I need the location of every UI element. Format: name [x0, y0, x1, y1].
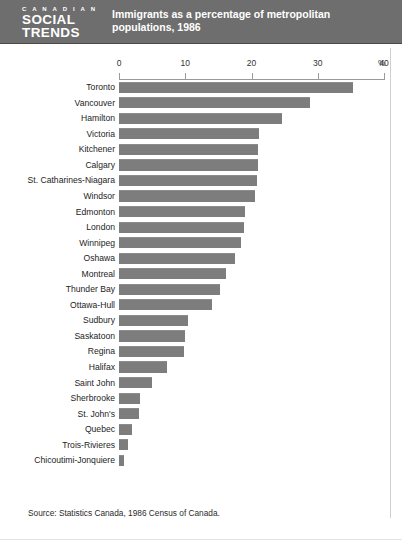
bar-wrapper	[119, 408, 139, 419]
bar	[119, 346, 184, 357]
bar-row: Thunder Bay	[0, 282, 402, 298]
bar-row: Edmonton	[0, 204, 402, 220]
bar	[119, 284, 220, 295]
bar-category-label: Montreal	[82, 269, 115, 279]
bar-wrapper	[119, 113, 282, 124]
bar-category-label: Chicoutimi-Jonquiere	[34, 455, 115, 465]
bar-wrapper	[119, 315, 188, 326]
bar	[119, 377, 152, 388]
bar-row: Windsor	[0, 189, 402, 205]
bar-wrapper	[119, 439, 128, 450]
bar	[119, 206, 245, 217]
bar-wrapper	[119, 424, 132, 435]
bar-wrapper	[119, 222, 244, 233]
bar-wrapper	[119, 361, 167, 372]
bar	[119, 330, 185, 341]
bar	[119, 455, 124, 466]
bar-wrapper	[119, 97, 310, 108]
bar-category-label: Saint John	[74, 378, 115, 388]
bar	[119, 175, 257, 186]
bar	[119, 268, 226, 279]
bar-row: Vancouver	[0, 96, 402, 112]
bar-wrapper	[119, 393, 140, 404]
x-axis-tick-label: 20	[232, 58, 272, 68]
bar-category-label: Trois-Rivieres	[62, 440, 115, 450]
bar-category-label: Oshawa	[83, 253, 115, 263]
bar-category-label: Kitchener	[79, 144, 115, 154]
bar-category-label: Winnipeg	[79, 238, 115, 248]
bar	[119, 439, 128, 450]
bar	[119, 159, 258, 170]
bar-row: Ottawa-Hull	[0, 298, 402, 314]
bar-row: Chicoutimi-Jonquiere	[0, 453, 402, 469]
bar-category-label: Victoria	[86, 129, 115, 139]
bar-category-label: Sherbrooke	[71, 393, 115, 403]
chart-title: Immigrants as a percentage of metropolit…	[112, 8, 387, 34]
bar	[119, 128, 259, 139]
bar-row: Toronto	[0, 80, 402, 96]
masthead-trends: TRENDS	[22, 26, 106, 40]
bar-wrapper	[119, 144, 258, 155]
bar-category-label: Ottawa-Hull	[70, 300, 115, 310]
bar-row: London	[0, 220, 402, 236]
bar-wrapper	[119, 175, 257, 186]
chart-page: C A N A D I A N SOCIAL TRENDS Immigrants…	[0, 0, 402, 540]
bar	[119, 97, 310, 108]
bar-row: Kitchener	[0, 142, 402, 158]
x-axis-tick-mark	[252, 73, 253, 80]
masthead-logo: C A N A D I A N SOCIAL TRENDS	[22, 5, 106, 40]
bar-category-label: Calgary	[85, 160, 115, 170]
bar-category-label: Toronto	[86, 82, 115, 92]
bar-row: Sherbrooke	[0, 391, 402, 407]
bar-category-label: Thunder Bay	[66, 284, 115, 294]
bar-row: Sudbury	[0, 313, 402, 329]
bar	[119, 222, 244, 233]
bar-row: Trois-Rivieres	[0, 438, 402, 454]
x-axis-tick-label: 0	[99, 58, 139, 68]
bar-category-label: Regina	[88, 346, 115, 356]
bar-row: St. John's	[0, 406, 402, 422]
bar-category-label: Vancouver	[75, 98, 115, 108]
bar-rows: TorontoVancouverHamiltonVictoriaKitchene…	[0, 80, 402, 469]
bar-category-label: Hamilton	[81, 113, 115, 123]
bar-row: Saint John	[0, 375, 402, 391]
x-axis-tick-mark	[119, 73, 120, 80]
bar-category-label: Sudbury	[83, 315, 115, 325]
bar	[119, 113, 282, 124]
bar-wrapper	[119, 455, 124, 466]
x-axis-tick-mark	[185, 73, 186, 80]
bar-category-label: Saskatoon	[74, 331, 115, 341]
bar-wrapper	[119, 377, 152, 388]
bar-row: Calgary	[0, 158, 402, 174]
bar-row: Quebec	[0, 422, 402, 438]
bar-category-label: Halifax	[89, 362, 115, 372]
bar	[119, 408, 139, 419]
bar-category-label: St. John's	[78, 409, 115, 419]
bar-row: St. Catharines-Niagara	[0, 173, 402, 189]
bar-category-label: London	[86, 222, 115, 232]
bar-wrapper	[119, 190, 255, 201]
bar-row: Winnipeg	[0, 235, 402, 251]
bar-wrapper	[119, 253, 235, 264]
bar-wrapper	[119, 299, 212, 310]
bar	[119, 82, 353, 93]
bar	[119, 393, 140, 404]
bar-wrapper	[119, 346, 184, 357]
bar-wrapper	[119, 330, 185, 341]
bar	[119, 315, 188, 326]
bar-wrapper	[119, 284, 220, 295]
bar-row: Hamilton	[0, 111, 402, 127]
bar	[119, 361, 167, 372]
bar-row: Victoria	[0, 127, 402, 143]
bar-row: Oshawa	[0, 251, 402, 267]
bar-wrapper	[119, 128, 259, 139]
bar	[119, 190, 255, 201]
x-axis-tick-mark	[384, 73, 385, 80]
bar-row: Regina	[0, 344, 402, 360]
bar-wrapper	[119, 206, 245, 217]
bar	[119, 253, 235, 264]
bar-row: Halifax	[0, 360, 402, 376]
bar-category-label: Quebec	[85, 424, 115, 434]
bar	[119, 299, 212, 310]
publication-header: C A N A D I A N SOCIAL TRENDS Immigrants…	[0, 0, 402, 44]
